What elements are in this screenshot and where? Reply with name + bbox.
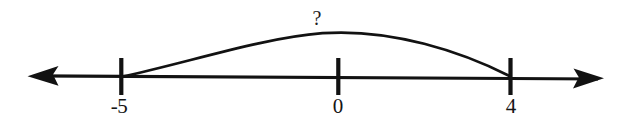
- axis-line: [34, 74, 598, 80]
- arc-question-label: ?: [313, 8, 322, 28]
- tick-mark-zero: [336, 58, 340, 95]
- number-line-figure: -5 0 4 ?: [0, 0, 629, 122]
- tick-label-neg5: -5: [111, 96, 128, 117]
- tick-label-four: 4: [506, 96, 517, 117]
- tick-label-zero: 0: [333, 96, 344, 117]
- span-arc: [122, 33, 510, 77]
